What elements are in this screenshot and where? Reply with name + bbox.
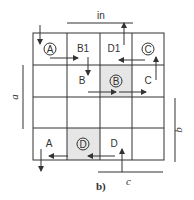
cell-a: A bbox=[46, 138, 53, 149]
figure-label: b) bbox=[96, 180, 106, 193]
cell-d1: D1 bbox=[108, 43, 121, 54]
cell-a-circled: A bbox=[47, 44, 54, 55]
b-label: b bbox=[172, 127, 184, 133]
a-label: a bbox=[8, 94, 20, 100]
cell-c-circled: C bbox=[144, 44, 151, 55]
in-label: in bbox=[97, 10, 105, 21]
cell-flow-diagram: in a b c b) A B1 D1 C B B C A D D bbox=[0, 0, 194, 200]
cell-b-circled: B bbox=[113, 76, 120, 87]
cell-d-circled: D bbox=[79, 139, 86, 150]
cell-b1: B1 bbox=[77, 43, 90, 54]
c-label: c bbox=[126, 175, 131, 187]
cell-b: B bbox=[79, 75, 86, 86]
cell-c: C bbox=[144, 75, 151, 86]
cell-d: D bbox=[110, 138, 117, 149]
